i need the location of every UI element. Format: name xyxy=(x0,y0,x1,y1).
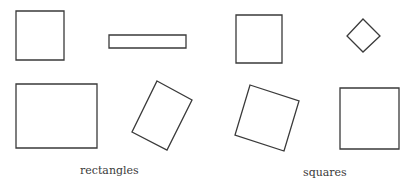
rectangles-label: rectangles xyxy=(80,164,139,177)
square-diamond xyxy=(347,19,380,52)
square-tilted xyxy=(235,85,299,151)
shapes-canvas xyxy=(0,0,406,183)
squares-label: squares xyxy=(303,166,347,179)
rectangle-square-upright xyxy=(16,11,64,60)
rectangle-wide xyxy=(16,84,97,148)
square-upright xyxy=(236,15,282,63)
square-large xyxy=(340,88,399,149)
rectangle-tilted xyxy=(132,81,192,150)
rectangle-thin-bar xyxy=(109,35,186,48)
